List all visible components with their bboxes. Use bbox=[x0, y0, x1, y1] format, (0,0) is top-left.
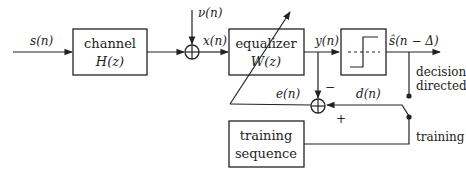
minus-sign: − bbox=[325, 80, 335, 94]
training-label: training bbox=[240, 128, 293, 143]
training-line bbox=[304, 118, 409, 144]
channel-transfer-label: H(z) bbox=[95, 54, 124, 69]
label-d-n: d(n) bbox=[356, 87, 381, 101]
label-e-n: e(n) bbox=[276, 87, 301, 101]
error-summer bbox=[311, 99, 325, 113]
label-nu-n: ν(n) bbox=[198, 6, 223, 20]
label-s-n: s(n) bbox=[30, 34, 54, 48]
label-s-hat: ŝ(n − Δ) bbox=[389, 34, 439, 48]
decision-block bbox=[341, 29, 386, 75]
channel-label: channel bbox=[84, 36, 136, 51]
noise-summer bbox=[185, 45, 199, 59]
training-sequence-block: training sequence bbox=[229, 121, 304, 167]
decision-directed-contact bbox=[406, 93, 411, 98]
equalizer-block: equalizer W(z) bbox=[229, 29, 304, 75]
label-decision: decision bbox=[416, 65, 466, 79]
label-training-position: training bbox=[416, 130, 465, 144]
equalizer-block-diagram: s(n) channel H(z) ν(n) x(n) equalizer W(… bbox=[0, 0, 466, 178]
error-line bbox=[230, 104, 311, 105]
label-x-n: x(n) bbox=[203, 34, 227, 48]
label-directed: directed bbox=[416, 79, 466, 93]
input-signal: s(n) bbox=[13, 34, 72, 52]
channel-block: channel H(z) bbox=[73, 29, 147, 75]
sequence-label: sequence bbox=[235, 146, 297, 161]
equalizer-transfer-label: W(z) bbox=[251, 54, 281, 69]
label-y-n: y(n) bbox=[314, 34, 339, 48]
plus-sign: + bbox=[336, 112, 346, 126]
